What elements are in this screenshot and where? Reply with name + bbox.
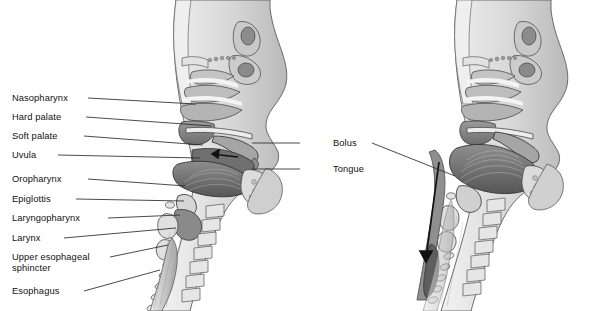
label-soft-palate: Soft palate bbox=[12, 131, 58, 142]
label-epiglottis: Epiglottis bbox=[12, 194, 51, 205]
diagram-canvas: Nasopharynx Hard palate Soft palate Uvul… bbox=[0, 0, 595, 311]
label-hard-palate: Hard palate bbox=[12, 112, 61, 123]
label-laryngopharynx: Laryngopharynx bbox=[12, 213, 80, 224]
label-bolus: Bolus bbox=[333, 138, 357, 149]
label-uvula: Uvula bbox=[12, 150, 36, 161]
label-tongue: Tongue bbox=[333, 164, 364, 175]
label-oropharynx: Oropharynx bbox=[12, 174, 62, 185]
figure-right-pharyngeal-phase bbox=[395, 0, 595, 311]
label-nasopharynx: Nasopharynx bbox=[12, 93, 68, 104]
label-esophagus: Esophagus bbox=[12, 286, 59, 297]
figure-left-oral-phase bbox=[120, 0, 310, 311]
label-larynx: Larynx bbox=[12, 233, 41, 244]
label-upper-esophageal-sphincter: Upper esophageal sphincter bbox=[12, 252, 90, 273]
